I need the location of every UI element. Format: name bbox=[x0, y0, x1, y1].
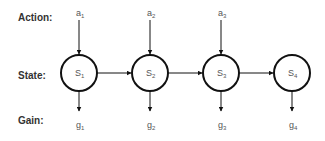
gain-label-1: g1 bbox=[76, 120, 85, 131]
row-label-gain: Gain: bbox=[18, 115, 44, 126]
node-3: a3 S3 g3 bbox=[203, 8, 239, 131]
row-label-action: Action: bbox=[18, 12, 52, 23]
node-4: S4 g4 bbox=[274, 55, 310, 131]
node-1: a1 S1 g1 bbox=[61, 8, 97, 131]
mdp-chain-diagram: Action: State: Gain: a1 S1 g1 a2 S2 g2 a… bbox=[0, 0, 325, 141]
gain-label-2: g2 bbox=[147, 120, 156, 131]
action-label-2: a2 bbox=[147, 8, 156, 19]
gain-label-4: g4 bbox=[289, 120, 298, 131]
row-label-state: State: bbox=[18, 70, 46, 81]
action-label-1: a1 bbox=[76, 8, 85, 19]
gain-label-3: g3 bbox=[218, 120, 227, 131]
node-2: a2 S2 g2 bbox=[132, 8, 168, 131]
action-label-3: a3 bbox=[218, 8, 227, 19]
